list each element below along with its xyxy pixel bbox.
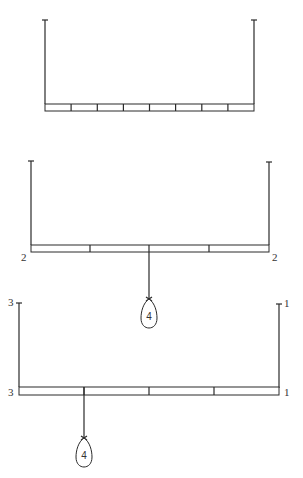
weight-label: 4 <box>146 311 152 322</box>
left-force-label: 2 <box>21 251 27 263</box>
lever-diagrams: 2 2 4 3 3 1 1 4 <box>0 0 303 478</box>
beam <box>31 245 269 252</box>
right-force-label: 2 <box>272 251 278 263</box>
left-top-label: 3 <box>8 296 14 308</box>
diagram-2: 2 2 4 <box>21 161 278 328</box>
weight-label: 4 <box>81 450 87 461</box>
right-top-label: 1 <box>284 297 290 309</box>
right-force-label: 1 <box>284 386 290 398</box>
diagram-1 <box>42 20 257 111</box>
left-force-label: 3 <box>8 386 14 398</box>
